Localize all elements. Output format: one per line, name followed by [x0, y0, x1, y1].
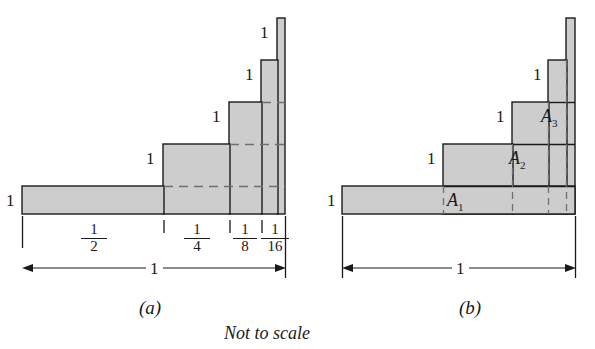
panel-a-height-label-4: 1 [245, 66, 254, 83]
panel-b-graphic [342, 18, 576, 278]
fraction-denominator: 8 [233, 239, 257, 254]
fraction-denominator: 16 [261, 239, 289, 254]
panel-b-total-width-label: 1 [452, 259, 469, 279]
panel-a-arrowhead-right [275, 264, 286, 272]
panel-a-height-label-3: 1 [212, 108, 221, 125]
panel-b-height-label-2: 1 [427, 150, 436, 167]
fraction-numerator: 1 [233, 222, 257, 237]
area-subscript: 3 [552, 117, 558, 129]
fraction-numerator: 1 [184, 222, 210, 237]
panel-a-arrowhead-left [22, 264, 33, 272]
area-subscript: 1 [458, 201, 464, 213]
panel-b-arrowhead-right [565, 264, 576, 272]
fraction-numerator: 1 [261, 222, 289, 237]
panel-a-caption: (a) [139, 297, 161, 319]
panel-b-caption: (b) [459, 297, 481, 319]
area-subscript: 2 [520, 159, 526, 171]
area-letter: A [541, 106, 552, 126]
geometric-series-figure: 1 1 1 1 1 1 2 1 4 1 8 1 16 1 (a) 1 1 1 1… [0, 0, 595, 349]
fraction-denominator: 2 [81, 239, 107, 254]
panel-a-bar-2 [163, 144, 230, 214]
figure-svg [0, 0, 595, 349]
panel-a-total-width-label: 1 [146, 259, 163, 279]
panel-a-height-label-2: 1 [146, 150, 155, 167]
panel-b-arrowhead-left [342, 264, 353, 272]
panel-b-area-label-A2: A2 [509, 148, 526, 171]
area-letter: A [509, 148, 520, 168]
panel-a-bar-3 [229, 102, 262, 214]
panel-b-area-label-A3: A3 [541, 106, 558, 129]
panel-b-height-label-1: 1 [327, 192, 336, 209]
panel-b-height-label-4: 1 [533, 66, 542, 83]
panel-a-width-fraction-eighth: 1 8 [233, 222, 257, 255]
fraction-denominator: 4 [184, 239, 210, 254]
panel-a-width-fraction-half: 1 2 [81, 222, 107, 255]
area-letter: A [447, 190, 458, 210]
panel-a-height-label-1: 1 [6, 192, 15, 209]
panel-a-height-label-5: 1 [260, 24, 269, 41]
panel-a-bar-4 [261, 60, 278, 214]
fraction-numerator: 1 [81, 222, 107, 237]
panel-b-height-label-3: 1 [496, 108, 505, 125]
panel-a-width-fraction-sixteenth: 1 16 [261, 222, 289, 255]
panel-a-bar-1 [22, 186, 164, 214]
panel-b-area-label-A1: A1 [447, 190, 464, 213]
panel-a-width-fraction-quarter: 1 4 [184, 222, 210, 255]
figure-caption-not-to-scale: Not to scale [224, 323, 310, 344]
